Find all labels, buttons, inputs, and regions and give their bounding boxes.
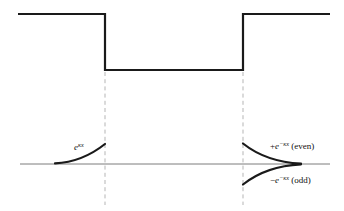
- right-even-label-exponent: −κx: [279, 140, 289, 147]
- potential-step-figure: eκx +e−κx(even) −e−κx(odd): [0, 0, 344, 211]
- left-growing-label-exponent: κx: [78, 141, 84, 148]
- right-odd-label-exponent: −κx: [279, 174, 289, 181]
- right-even-label: +e−κx(even): [270, 140, 314, 151]
- right-odd-label: −e−κx(odd): [270, 174, 311, 185]
- right-even-label-suffix: (even): [291, 141, 314, 151]
- figure-canvas: eκx +e−κx(even) −e−κx(odd): [0, 0, 344, 211]
- right-odd-label-suffix: (odd): [291, 175, 311, 185]
